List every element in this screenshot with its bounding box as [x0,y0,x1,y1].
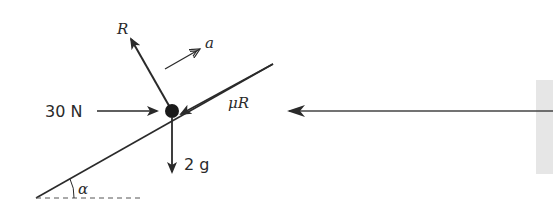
normal-reaction-arrow [131,39,172,111]
weight-label: 2 g [184,155,209,174]
angle-label: α [78,180,88,198]
friction-label: μR [228,94,249,112]
friction-arrow [181,64,273,114]
side-panel [536,80,553,174]
normal-reaction-label: R [116,20,128,38]
angle-arc [70,179,74,198]
particle [165,104,179,118]
applied-force-label: 30 N [45,102,82,121]
acceleration-arrow [165,49,200,69]
force-diagram: α R a 30 N μR 2 g [0,0,553,217]
acceleration-label: a [205,34,214,52]
